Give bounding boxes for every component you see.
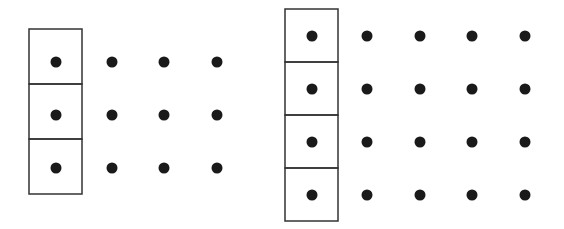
grid-dot	[362, 84, 373, 95]
grid-dot	[415, 137, 426, 148]
grid-3x4	[29, 29, 223, 194]
grid-dot	[107, 163, 118, 174]
grid-dot	[415, 190, 426, 201]
grid-dot	[362, 137, 373, 148]
grid-dot	[159, 57, 170, 68]
grid-dot	[362, 190, 373, 201]
grid-4x5	[285, 9, 531, 221]
grid-dot	[212, 110, 223, 121]
grid-dot	[51, 163, 62, 174]
grid-dot	[467, 137, 478, 148]
grid-dot	[212, 57, 223, 68]
grid-dot	[415, 31, 426, 42]
dot-grid-diagram	[0, 0, 564, 229]
grid-dot	[467, 190, 478, 201]
grid-dot	[307, 190, 318, 201]
grid-dot	[159, 163, 170, 174]
grid-dot	[520, 31, 531, 42]
grid-dot	[467, 31, 478, 42]
grid-dot	[51, 57, 62, 68]
grid-dot	[51, 110, 62, 121]
grid-dot	[212, 163, 223, 174]
grid-dot	[307, 84, 318, 95]
grid-dot	[520, 84, 531, 95]
grid-dot	[107, 57, 118, 68]
grid-dot	[415, 84, 426, 95]
grid-dot	[467, 84, 478, 95]
grid-dot	[307, 137, 318, 148]
grid-dot	[520, 137, 531, 148]
grid-dot	[307, 31, 318, 42]
grid-dot	[520, 190, 531, 201]
grid-dot	[362, 31, 373, 42]
highlight-box-cell	[29, 29, 82, 84]
grid-dot	[107, 110, 118, 121]
grid-dot	[159, 110, 170, 121]
